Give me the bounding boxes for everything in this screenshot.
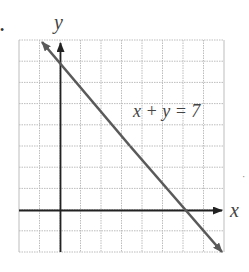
stray-mark: · <box>242 171 245 182</box>
equation-line <box>42 42 130 146</box>
y-axis-label: y <box>52 11 63 34</box>
bullet-marker: • <box>0 23 4 37</box>
equation-label: x + y = 7 <box>132 101 201 121</box>
equation-line-lower <box>130 146 222 252</box>
x-axis-label: x <box>229 199 239 221</box>
coordinate-graph: y x x + y = 7 • · <box>0 0 249 272</box>
